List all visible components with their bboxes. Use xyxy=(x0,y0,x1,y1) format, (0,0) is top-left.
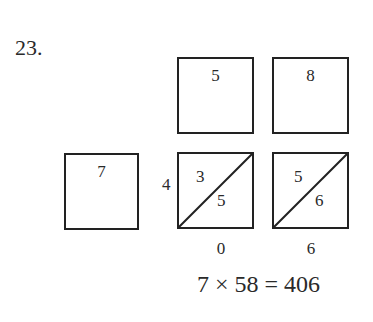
side-carry-digit: 4 xyxy=(162,176,171,194)
result-digit-1: 0 xyxy=(211,240,231,258)
top-digit-2: 8 xyxy=(274,67,347,85)
lattice-1-lower: 5 xyxy=(217,192,226,210)
lattice-2-upper: 5 xyxy=(294,168,303,186)
left-box: 7 xyxy=(64,153,139,230)
lattice-2-lower: 6 xyxy=(315,192,324,210)
equation: 7 × 58 = 406 xyxy=(197,271,320,297)
result-digit-2: 6 xyxy=(301,240,321,258)
top-box-1: 5 xyxy=(177,57,254,134)
problem-number: 23. xyxy=(15,36,43,60)
diagonal-line xyxy=(274,154,347,227)
top-digit-1: 5 xyxy=(179,67,252,85)
lattice-cell-2: 5 6 xyxy=(272,152,349,229)
top-box-2: 8 xyxy=(272,57,349,134)
left-digit: 7 xyxy=(66,163,137,181)
lattice-cell-1: 3 5 xyxy=(177,152,254,229)
diagonal-line xyxy=(179,154,252,227)
lattice-1-upper: 3 xyxy=(196,168,205,186)
